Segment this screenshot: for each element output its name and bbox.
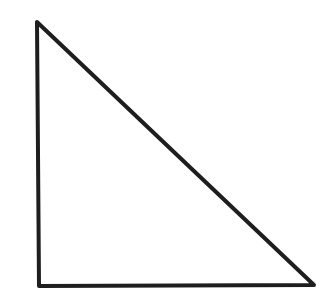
right-triangle <box>37 22 314 286</box>
diagram-canvas <box>0 0 332 302</box>
